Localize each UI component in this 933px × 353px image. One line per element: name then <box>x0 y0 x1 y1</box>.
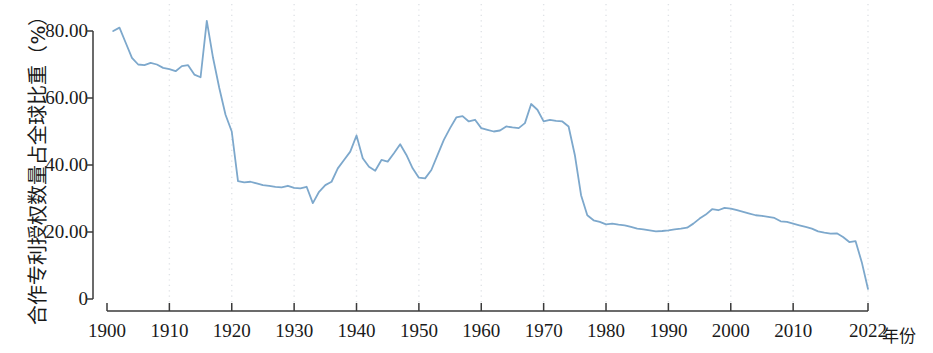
line-chart-plot <box>0 0 933 353</box>
vertical-gridlines <box>169 4 868 309</box>
chart-axes <box>86 31 868 311</box>
chart-container: 合作专利授权数量占全球比重（%） 020.0040.0060.0080.00 1… <box>0 0 933 353</box>
data-series-line <box>113 21 868 289</box>
